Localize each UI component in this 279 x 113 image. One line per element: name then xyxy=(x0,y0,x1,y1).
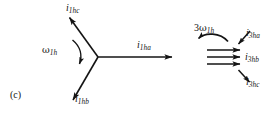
label-i3ha: i3ha xyxy=(246,28,260,38)
label-i1ha-subscript: 1ha xyxy=(140,43,151,52)
omega-3-subscript: 1h xyxy=(207,26,215,35)
label-i3hb: i3hb xyxy=(245,52,259,62)
label-i3hb-subscript: 3hb xyxy=(248,55,259,64)
label-i1hb-subscript: 1hb xyxy=(78,97,89,106)
panel-label-c: (c) xyxy=(10,89,21,100)
label-i1hc: i1hc xyxy=(66,3,80,13)
omega-symbol-3: ω xyxy=(199,22,207,33)
omega-symbol: ω xyxy=(42,44,50,55)
rotation-arrow-three-omega-1h xyxy=(199,34,229,41)
label-i3ha-subscript: 3ha xyxy=(249,31,260,40)
diagram-canvas xyxy=(0,0,279,113)
phasor-vector-i1hc xyxy=(70,18,99,58)
label-i1ha: i1ha xyxy=(137,40,151,50)
rotation-arrow-omega-1h xyxy=(73,40,81,64)
label-omega-1h: ω1h xyxy=(42,45,57,55)
label-i3hc: i3hc xyxy=(246,77,260,87)
label-i1hb: i1hb xyxy=(75,94,89,104)
omega-subscript: 1h xyxy=(50,48,58,57)
label-i3hc-subscript: 3hc xyxy=(249,80,260,89)
label-i1hc-subscript: 1hc xyxy=(69,6,80,15)
label-three-omega-1h: 3ω1h xyxy=(194,23,214,33)
figure-panel-c: i1hc i1ha i1hb ω1h 3ω1h i3ha i3hb i3hc (… xyxy=(0,0,279,113)
